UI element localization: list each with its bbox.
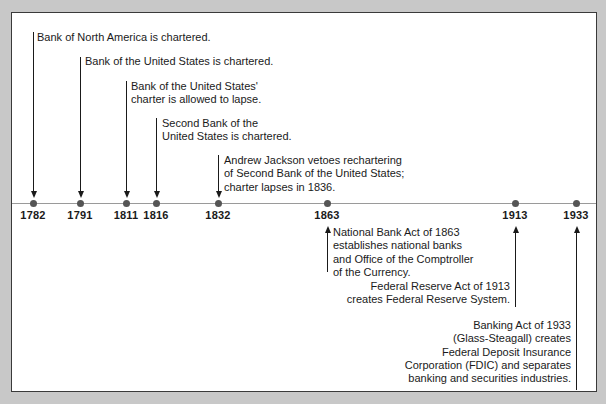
connector-line-1933	[576, 232, 577, 390]
event-text-line: National Bank Act of 1863	[333, 226, 473, 239]
event-text-line: creates Federal Reserve System.	[347, 293, 510, 306]
event-text-line: charter is allowed to lapse.	[131, 93, 261, 106]
year-label-1816: 1816	[143, 209, 168, 221]
event-text-line: Bank of North America is chartered.	[37, 31, 211, 44]
timeline-dot-1832	[215, 200, 222, 207]
event-text-line: Bank of the United States is chartered.	[85, 55, 273, 68]
timeline-panel: 1782 1791 1811 1816 1832 1863 1913 1933 …	[11, 12, 597, 392]
year-label-1811: 1811	[114, 209, 139, 221]
timeline-dot-1863	[324, 200, 331, 207]
arrow-down-icon	[31, 191, 37, 198]
arrow-down-icon	[78, 191, 84, 198]
arrow-down-icon	[216, 191, 222, 198]
connector-line-1811	[126, 81, 127, 193]
event-label-1832: Andrew Jackson vetoes rechartering of Se…	[224, 154, 404, 194]
event-text-line: charter lapses in 1836.	[224, 181, 404, 194]
event-text-line: of the Currency.	[333, 266, 473, 279]
arrow-down-icon	[124, 191, 130, 198]
timeline-dot-1782	[30, 200, 37, 207]
event-text-line: United States is chartered.	[162, 130, 292, 143]
event-label-1782: Bank of North America is chartered.	[37, 31, 211, 44]
connector-line-1913	[515, 232, 516, 307]
timeline-dot-1791	[77, 200, 84, 207]
event-text-line: Bank of the United States'	[131, 80, 261, 93]
year-label-1791: 1791	[67, 209, 92, 221]
event-text-line: Federal Deposit Insurance	[405, 346, 571, 359]
connector-line-1791	[80, 57, 81, 193]
event-text-line: Corporation (FDIC) and separates	[405, 359, 571, 372]
event-text-line: and Office of the Comptroller	[333, 253, 473, 266]
timeline-dot-1811	[123, 200, 130, 207]
connector-line-1832	[218, 155, 219, 193]
event-text-line: establishes national banks	[333, 239, 473, 252]
event-label-1811: Bank of the United States' charter is al…	[131, 80, 261, 107]
timeline-dot-1933	[573, 200, 580, 207]
event-label-1933: Banking Act of 1933 (Glass-Steagall) cre…	[405, 319, 571, 385]
year-label-1913: 1913	[502, 209, 527, 221]
year-label-1863: 1863	[314, 209, 339, 221]
connector-line-1782	[33, 32, 34, 193]
event-label-1816: Second Bank of the United States is char…	[162, 117, 292, 144]
connector-line-1816	[156, 118, 157, 193]
event-label-1913: Federal Reserve Act of 1913 creates Fede…	[347, 280, 510, 307]
event-label-1863: National Bank Act of 1863 establishes na…	[333, 226, 473, 279]
timeline-axis	[12, 203, 596, 204]
event-text-line: Andrew Jackson vetoes rechartering	[224, 154, 404, 167]
arrow-down-icon	[154, 191, 160, 198]
connector-line-1863	[327, 232, 328, 272]
year-label-1832: 1832	[205, 209, 230, 221]
event-text-line: banking and securities industries.	[405, 372, 571, 385]
timeline-dot-1816	[153, 200, 160, 207]
event-text-line: Second Bank of the	[162, 117, 292, 130]
event-text-line: Banking Act of 1933	[405, 319, 571, 332]
year-label-1782: 1782	[20, 209, 45, 221]
event-text-line: Federal Reserve Act of 1913	[347, 280, 510, 293]
event-text-line: (Glass-Steagall) creates	[405, 332, 571, 345]
event-label-1791: Bank of the United States is chartered.	[85, 55, 273, 68]
year-label-1933: 1933	[563, 209, 588, 221]
timeline-dot-1913	[512, 200, 519, 207]
event-text-line: of Second Bank of the United States;	[224, 167, 404, 180]
